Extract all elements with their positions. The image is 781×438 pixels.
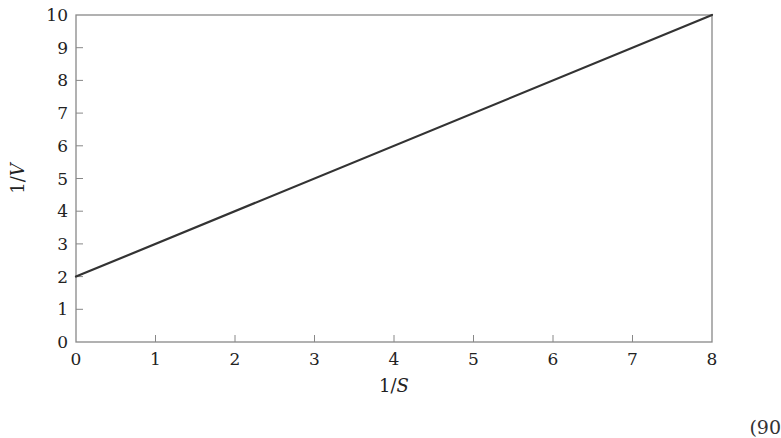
y-axis-label: 1/V xyxy=(7,161,28,194)
y-tick-label: 4 xyxy=(57,201,68,221)
x-tick-label: 8 xyxy=(707,349,718,369)
x-axis-label: 1/S xyxy=(379,375,409,396)
x-tick-label: 6 xyxy=(548,349,559,369)
series-line xyxy=(76,15,712,277)
x-tick-label: 5 xyxy=(468,349,479,369)
y-tick-label: 1 xyxy=(57,299,68,319)
x-tick-label: 4 xyxy=(389,349,400,369)
x-tick-label: 3 xyxy=(309,349,320,369)
y-tick-label: 8 xyxy=(57,70,68,90)
series-group xyxy=(76,15,712,277)
plot-frame xyxy=(76,15,712,342)
y-axis-ticks: 012345678910 xyxy=(46,5,83,352)
y-tick-label: 10 xyxy=(46,5,68,25)
y-tick-label: 5 xyxy=(57,169,68,189)
y-tick-label: 9 xyxy=(57,38,68,58)
y-tick-label: 2 xyxy=(57,267,68,287)
x-tick-label: 0 xyxy=(71,349,82,369)
plot-border xyxy=(76,15,712,342)
x-tick-label: 2 xyxy=(230,349,241,369)
y-tick-label: 3 xyxy=(57,234,68,254)
x-axis-ticks: 012345678 xyxy=(71,335,718,369)
x-tick-label: 7 xyxy=(627,349,638,369)
x-tick-label: 1 xyxy=(150,349,161,369)
y-tick-label: 0 xyxy=(57,332,68,352)
y-tick-label: 7 xyxy=(57,103,68,123)
page-number-fragment: (90 xyxy=(749,416,781,438)
y-tick-label: 6 xyxy=(57,136,68,156)
